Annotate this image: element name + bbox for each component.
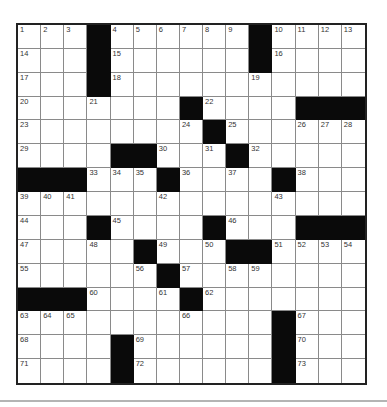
grid-cell[interactable]: 41 xyxy=(64,192,87,216)
grid-cell[interactable]: 20 xyxy=(18,97,41,121)
grid-cell[interactable] xyxy=(203,192,226,216)
grid-cell[interactable]: 35 xyxy=(134,168,157,192)
grid-cell[interactable] xyxy=(249,97,272,121)
grid-cell[interactable]: 36 xyxy=(180,168,203,192)
grid-cell[interactable]: 3 xyxy=(64,25,87,49)
grid-cell[interactable] xyxy=(64,264,87,288)
grid-cell[interactable]: 27 xyxy=(319,120,342,144)
grid-cell[interactable]: 67 xyxy=(296,311,319,335)
grid-cell[interactable]: 44 xyxy=(18,216,41,240)
grid-cell[interactable]: 58 xyxy=(226,264,249,288)
grid-cell[interactable] xyxy=(342,288,365,312)
grid-cell[interactable]: 43 xyxy=(272,192,295,216)
grid-cell[interactable]: 33 xyxy=(87,168,110,192)
grid-cell[interactable]: 71 xyxy=(18,359,41,383)
grid-cell[interactable] xyxy=(111,311,134,335)
grid-cell[interactable] xyxy=(203,359,226,383)
grid-cell[interactable] xyxy=(41,216,64,240)
grid-cell[interactable] xyxy=(41,120,64,144)
grid-cell[interactable] xyxy=(203,335,226,359)
grid-cell[interactable] xyxy=(180,335,203,359)
grid-cell[interactable] xyxy=(41,144,64,168)
grid-cell[interactable]: 45 xyxy=(111,216,134,240)
grid-cell[interactable] xyxy=(249,120,272,144)
grid-cell[interactable]: 68 xyxy=(18,335,41,359)
grid-cell[interactable] xyxy=(203,311,226,335)
grid-cell[interactable]: 53 xyxy=(319,240,342,264)
grid-cell[interactable]: 59 xyxy=(249,264,272,288)
grid-cell[interactable] xyxy=(319,192,342,216)
grid-cell[interactable] xyxy=(342,311,365,335)
grid-cell[interactable] xyxy=(249,288,272,312)
grid-cell[interactable] xyxy=(157,97,180,121)
grid-cell[interactable] xyxy=(342,168,365,192)
grid-cell[interactable] xyxy=(41,335,64,359)
grid-cell[interactable]: 34 xyxy=(111,168,134,192)
grid-cell[interactable] xyxy=(41,359,64,383)
grid-cell[interactable]: 64 xyxy=(41,311,64,335)
grid-cell[interactable]: 69 xyxy=(134,335,157,359)
grid-cell[interactable] xyxy=(41,49,64,73)
grid-cell[interactable]: 6 xyxy=(157,25,180,49)
grid-cell[interactable]: 15 xyxy=(111,49,134,73)
grid-cell[interactable] xyxy=(319,264,342,288)
grid-cell[interactable] xyxy=(319,168,342,192)
grid-cell[interactable] xyxy=(296,49,319,73)
grid-cell[interactable]: 48 xyxy=(87,240,110,264)
grid-cell[interactable] xyxy=(64,335,87,359)
grid-cell[interactable]: 7 xyxy=(180,25,203,49)
grid-cell[interactable]: 39 xyxy=(18,192,41,216)
grid-cell[interactable] xyxy=(319,73,342,97)
grid-cell[interactable] xyxy=(157,216,180,240)
grid-cell[interactable] xyxy=(342,359,365,383)
grid-cell[interactable]: 30 xyxy=(157,144,180,168)
grid-cell[interactable] xyxy=(41,97,64,121)
grid-cell[interactable] xyxy=(272,73,295,97)
grid-cell[interactable] xyxy=(111,240,134,264)
grid-cell[interactable] xyxy=(157,73,180,97)
grid-cell[interactable]: 11 xyxy=(296,25,319,49)
grid-cell[interactable]: 21 xyxy=(87,97,110,121)
grid-cell[interactable] xyxy=(226,335,249,359)
grid-cell[interactable] xyxy=(249,216,272,240)
grid-cell[interactable] xyxy=(342,264,365,288)
grid-cell[interactable] xyxy=(134,288,157,312)
grid-cell[interactable] xyxy=(157,335,180,359)
grid-cell[interactable] xyxy=(272,288,295,312)
grid-cell[interactable]: 73 xyxy=(296,359,319,383)
grid-cell[interactable] xyxy=(226,192,249,216)
grid-cell[interactable]: 19 xyxy=(249,73,272,97)
grid-cell[interactable] xyxy=(226,49,249,73)
grid-cell[interactable] xyxy=(203,73,226,97)
grid-cell[interactable]: 4 xyxy=(111,25,134,49)
grid-cell[interactable] xyxy=(319,311,342,335)
grid-cell[interactable] xyxy=(272,120,295,144)
grid-cell[interactable] xyxy=(41,264,64,288)
grid-cell[interactable] xyxy=(180,192,203,216)
grid-cell[interactable] xyxy=(180,240,203,264)
grid-cell[interactable] xyxy=(87,192,110,216)
grid-cell[interactable] xyxy=(87,359,110,383)
grid-cell[interactable]: 17 xyxy=(18,73,41,97)
grid-cell[interactable]: 28 xyxy=(342,120,365,144)
grid-cell[interactable] xyxy=(319,144,342,168)
grid-cell[interactable] xyxy=(342,73,365,97)
grid-cell[interactable] xyxy=(180,144,203,168)
grid-cell[interactable]: 8 xyxy=(203,25,226,49)
grid-cell[interactable]: 70 xyxy=(296,335,319,359)
grid-cell[interactable]: 23 xyxy=(18,120,41,144)
grid-cell[interactable] xyxy=(226,73,249,97)
grid-cell[interactable] xyxy=(319,288,342,312)
grid-cell[interactable]: 65 xyxy=(64,311,87,335)
grid-cell[interactable]: 9 xyxy=(226,25,249,49)
grid-cell[interactable] xyxy=(111,97,134,121)
grid-cell[interactable] xyxy=(203,49,226,73)
grid-cell[interactable] xyxy=(180,359,203,383)
grid-cell[interactable] xyxy=(157,359,180,383)
grid-cell[interactable]: 66 xyxy=(180,311,203,335)
grid-cell[interactable]: 50 xyxy=(203,240,226,264)
grid-cell[interactable]: 52 xyxy=(296,240,319,264)
grid-cell[interactable] xyxy=(111,288,134,312)
grid-cell[interactable] xyxy=(296,73,319,97)
grid-cell[interactable] xyxy=(41,240,64,264)
